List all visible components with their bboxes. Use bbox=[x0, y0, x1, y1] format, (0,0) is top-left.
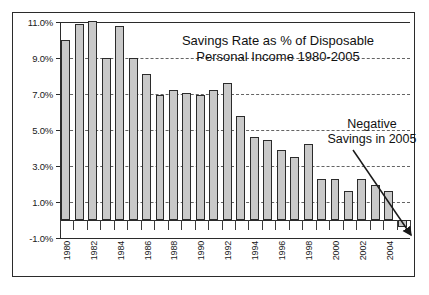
annotation-arrow-icon bbox=[309, 117, 429, 249]
bar-1996 bbox=[277, 150, 286, 220]
bar-slot bbox=[100, 22, 113, 238]
x-tick-mark bbox=[154, 220, 155, 230]
savings-rate-figure: 11.0%9.0%7.0%5.0%3.0%1.0%-1.0% 198019821… bbox=[0, 0, 429, 295]
y-tick-label: 1.0% bbox=[32, 197, 53, 208]
bar-1997 bbox=[290, 157, 299, 220]
chart-title-line-1: Savings Rate as % of Disposable bbox=[153, 33, 403, 49]
x-tick-mark bbox=[275, 220, 276, 230]
bar-1988 bbox=[169, 90, 178, 220]
x-tick-mark bbox=[248, 220, 249, 230]
x-tick-label-1982: 1982 bbox=[89, 241, 99, 260]
x-tick-mark bbox=[73, 220, 74, 230]
bar-slot bbox=[127, 22, 140, 238]
x-tick-mark bbox=[168, 220, 169, 230]
x-tick-mark bbox=[114, 220, 115, 230]
bar-1980 bbox=[61, 40, 70, 220]
x-tick-label-1988: 1988 bbox=[169, 241, 179, 260]
x-tick-label-1996: 1996 bbox=[277, 241, 287, 260]
y-tick-label: 11.0% bbox=[28, 17, 53, 28]
bar-1991 bbox=[209, 90, 218, 220]
bar-1987 bbox=[156, 95, 165, 220]
x-tick-mark bbox=[289, 220, 290, 230]
bar-1983 bbox=[102, 58, 111, 220]
bar-1989 bbox=[182, 93, 191, 220]
x-tick-mark bbox=[127, 220, 128, 230]
x-tick-label-1992: 1992 bbox=[223, 241, 233, 260]
bar-1982 bbox=[88, 21, 97, 220]
x-tick-label-1994: 1994 bbox=[250, 241, 260, 260]
bar-1995 bbox=[263, 140, 272, 220]
bar-slot bbox=[114, 22, 127, 238]
x-tick-mark bbox=[262, 220, 263, 230]
x-tick-label-1984: 1984 bbox=[116, 241, 126, 260]
x-tick-mark bbox=[60, 220, 61, 230]
y-tick-label: -1.0% bbox=[29, 233, 53, 244]
y-tick-label: 3.0% bbox=[32, 161, 53, 172]
y-tick-label: 9.0% bbox=[32, 53, 53, 64]
chart-title: Savings Rate as % of Disposable Personal… bbox=[153, 33, 403, 65]
bar-1981 bbox=[75, 24, 84, 220]
x-tick-mark bbox=[235, 220, 236, 230]
bar-slot bbox=[87, 22, 100, 238]
x-tick-label-1980: 1980 bbox=[62, 241, 72, 260]
bar-1993 bbox=[236, 116, 245, 220]
x-tick-mark bbox=[208, 220, 209, 230]
bar-1985 bbox=[129, 58, 138, 220]
bar-1994 bbox=[250, 137, 259, 220]
x-tick-mark bbox=[302, 220, 303, 230]
chart-title-line-2: Personal Income 1980-2005 bbox=[153, 49, 403, 65]
bar-slot bbox=[73, 22, 86, 238]
x-tick-mark bbox=[100, 220, 101, 230]
x-tick-mark bbox=[195, 220, 196, 230]
y-tick-label: 7.0% bbox=[32, 89, 53, 100]
x-tick-mark bbox=[87, 220, 88, 230]
bar-1984 bbox=[115, 26, 124, 220]
x-tick-mark bbox=[222, 220, 223, 230]
bar-1992 bbox=[223, 83, 232, 220]
chart-frame: 11.0%9.0%7.0%5.0%3.0%1.0%-1.0% 198019821… bbox=[12, 12, 415, 277]
x-tick-label-1986: 1986 bbox=[143, 241, 153, 260]
x-tick-mark bbox=[181, 220, 182, 230]
bar-1990 bbox=[196, 95, 205, 220]
y-tick-label: 5.0% bbox=[32, 125, 53, 136]
x-tick-mark bbox=[141, 220, 142, 230]
x-tick-label-1990: 1990 bbox=[196, 241, 206, 260]
bar-slot bbox=[60, 22, 73, 238]
bar-1986 bbox=[142, 74, 151, 220]
